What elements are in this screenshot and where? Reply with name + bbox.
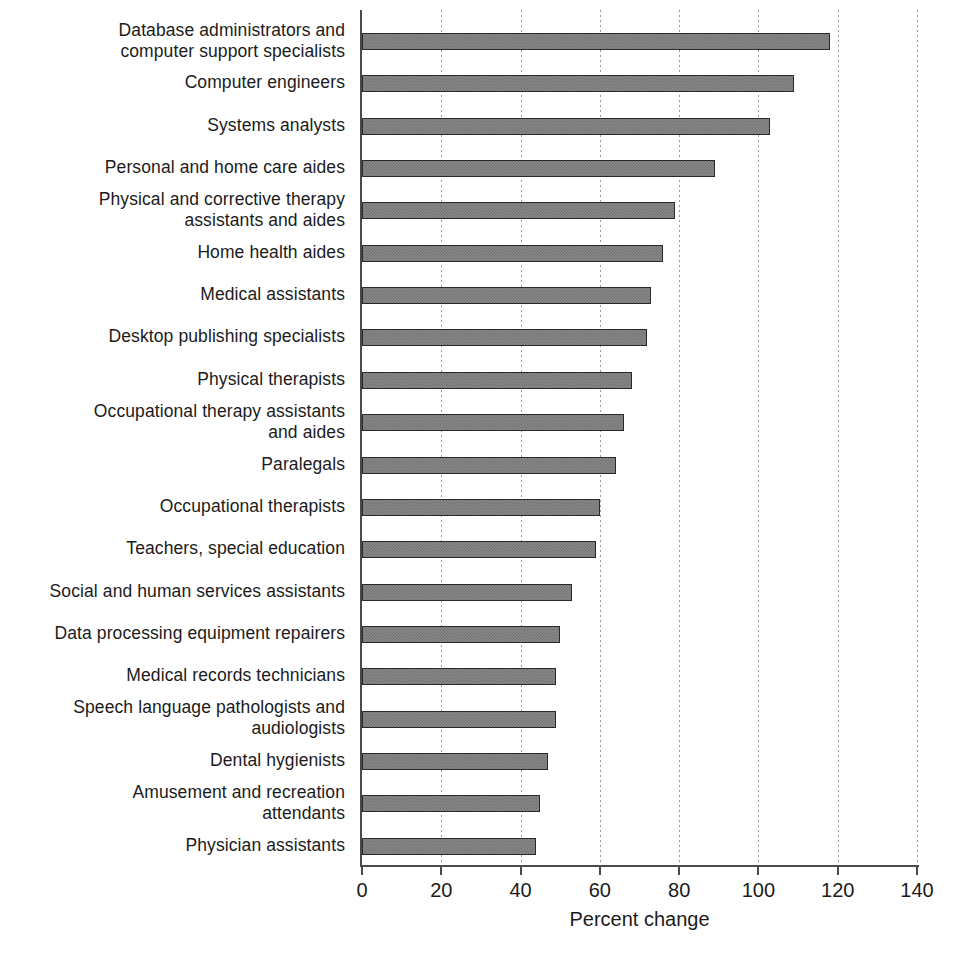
bar	[362, 541, 596, 558]
gridline-80	[679, 10, 680, 865]
bar	[362, 838, 536, 855]
x-tick-label: 120	[821, 879, 854, 901]
category-label: Medical records technicians	[0, 665, 345, 686]
gridline-20	[441, 10, 442, 865]
bar	[362, 499, 600, 516]
gridline-100	[758, 10, 759, 865]
category-label: Desktop publishing specialists	[0, 326, 345, 347]
category-label: Amusement and recreation attendants	[0, 782, 345, 824]
bar	[362, 414, 624, 431]
tick-mark-80	[678, 865, 680, 875]
category-label: Computer engineers	[0, 72, 345, 93]
tick-mark-0	[361, 865, 363, 875]
bar	[362, 202, 675, 219]
bar	[362, 457, 616, 474]
category-label: Database administrators and computer sup…	[0, 20, 345, 62]
category-label: Data processing equipment repairers	[0, 623, 345, 644]
category-labels-column: Database administrators and computer sup…	[0, 10, 345, 865]
x-tick-label: 20	[430, 879, 452, 901]
category-label: Teachers, special education	[0, 538, 345, 559]
gridline-40	[521, 10, 522, 865]
category-label: Occupational therapy assistants and aide…	[0, 401, 345, 443]
gridline-60	[600, 10, 601, 865]
bar	[362, 668, 556, 685]
gridline-140	[917, 10, 918, 865]
category-label: Dental hygienists	[0, 750, 345, 771]
category-label: Occupational therapists	[0, 496, 345, 517]
y-axis-line	[360, 10, 362, 865]
category-label: Systems analysts	[0, 115, 345, 136]
x-tick-label: 40	[509, 879, 531, 901]
bar	[362, 329, 647, 346]
x-tick-label: 140	[900, 879, 933, 901]
bar	[362, 33, 830, 50]
tick-mark-60	[599, 865, 601, 875]
bar	[362, 753, 548, 770]
category-label: Paralegals	[0, 454, 345, 475]
x-axis-line	[360, 865, 919, 867]
x-axis-title: Percent change	[362, 908, 917, 931]
plot-area: 020406080100120140	[362, 10, 917, 865]
tick-mark-140	[916, 865, 918, 875]
category-label: Social and human services assistants	[0, 581, 345, 602]
category-label: Physical and corrective therapy assistan…	[0, 189, 345, 231]
bar	[362, 75, 794, 92]
bar	[362, 795, 540, 812]
tick-mark-40	[520, 865, 522, 875]
category-label: Speech language pathologists and audiolo…	[0, 697, 345, 739]
bar	[362, 118, 770, 135]
category-label: Physical therapists	[0, 369, 345, 390]
x-tick-label: 60	[589, 879, 611, 901]
category-label: Home health aides	[0, 242, 345, 263]
category-label: Medical assistants	[0, 284, 345, 305]
tick-mark-120	[837, 865, 839, 875]
tick-mark-20	[440, 865, 442, 875]
bar	[362, 584, 572, 601]
tick-mark-100	[757, 865, 759, 875]
bar	[362, 160, 715, 177]
bar	[362, 245, 663, 262]
bar	[362, 711, 556, 728]
category-label: Physician assistants	[0, 835, 345, 856]
bar	[362, 626, 560, 643]
bar	[362, 287, 651, 304]
x-tick-label: 80	[668, 879, 690, 901]
percent-change-bar-chart: Database administrators and computer sup…	[0, 0, 960, 972]
x-tick-label: 0	[356, 879, 367, 901]
bar	[362, 372, 632, 389]
x-tick-label: 100	[742, 879, 775, 901]
category-label: Personal and home care aides	[0, 157, 345, 178]
gridline-120	[838, 10, 839, 865]
